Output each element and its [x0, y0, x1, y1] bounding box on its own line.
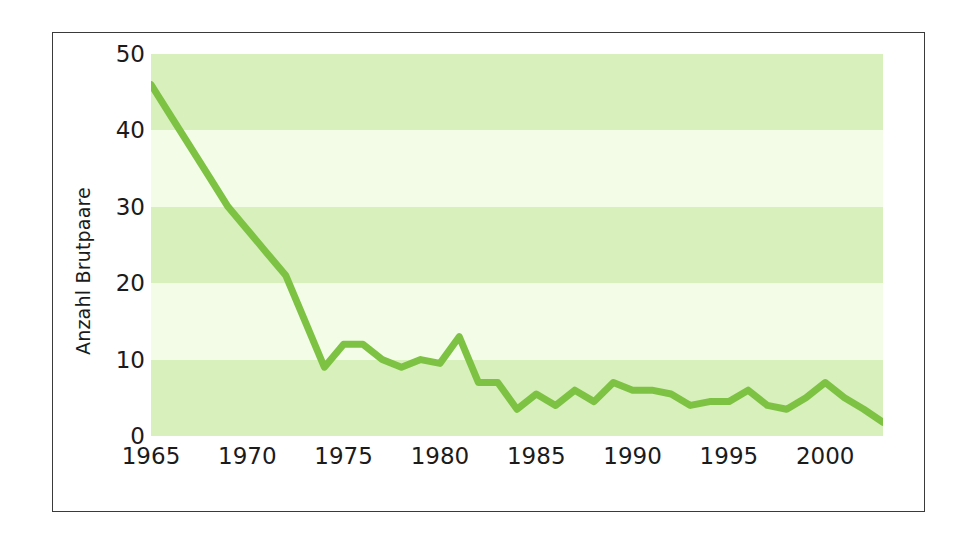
- y-axis-title: Anzahl Brutpaare: [71, 121, 95, 421]
- x-axis-tick-label: 1980: [411, 443, 470, 469]
- y-axis-title-label: Anzahl Brutpaare: [72, 187, 94, 355]
- y-axis-tick-label: 30: [116, 194, 145, 220]
- chart-plot-wrapper: Anzahl Brutpaare 01020304050 19651970197…: [53, 33, 924, 511]
- x-axis-tick-label: 1965: [122, 443, 181, 469]
- line-series-anzahl-brutpaare: [151, 85, 883, 423]
- y-axis-tick-label: 10: [116, 347, 145, 373]
- chart-figure: Anzahl Brutpaare 01020304050 19651970197…: [52, 32, 925, 512]
- x-axis-tick-label: 1985: [507, 443, 566, 469]
- y-axis-tick-label: 40: [116, 117, 145, 143]
- x-axis-tick-labels: 19651970197519801985199019952000: [151, 443, 883, 483]
- x-axis-tick-label: 1975: [314, 443, 373, 469]
- data-series-svg: [151, 54, 883, 436]
- x-axis-tick-label: 2000: [796, 443, 855, 469]
- plot-area: [151, 54, 883, 436]
- y-axis-tick-label: 50: [116, 41, 145, 67]
- x-axis-tick-label: 1995: [700, 443, 759, 469]
- y-axis-tick-labels: 01020304050: [93, 33, 151, 511]
- y-axis-tick-label: 20: [116, 270, 145, 296]
- x-axis-tick-label: 1990: [603, 443, 662, 469]
- x-axis-tick-label: 1970: [218, 443, 277, 469]
